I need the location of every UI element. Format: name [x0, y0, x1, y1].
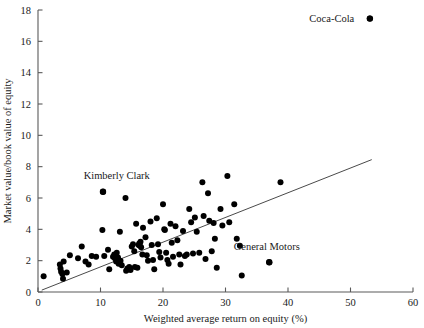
data-point	[75, 255, 81, 261]
data-point	[190, 251, 196, 257]
data-point	[144, 252, 150, 258]
data-point	[41, 273, 47, 279]
axes	[38, 10, 413, 292]
data-point	[205, 190, 211, 196]
data-point	[64, 269, 70, 275]
point-annotations: Coca-ColaKimberly ClarkGeneral Motors	[84, 13, 373, 265]
data-point	[209, 248, 215, 254]
data-point	[156, 249, 162, 255]
data-point	[134, 265, 140, 271]
data-point	[194, 229, 200, 235]
data-point	[203, 256, 209, 262]
y-tick-label: 8	[26, 161, 31, 172]
data-point	[79, 244, 85, 250]
y-tick-label: 6	[26, 193, 31, 204]
data-point	[160, 201, 166, 207]
data-point	[101, 253, 107, 259]
data-point	[173, 223, 179, 229]
data-point	[188, 219, 194, 225]
y-tick-label: 10	[21, 130, 32, 141]
annotation-label: General Motors	[234, 241, 300, 252]
data-point	[151, 266, 157, 272]
data-points	[41, 16, 373, 282]
data-point	[106, 266, 112, 272]
annotation-label: Coca-Cola	[309, 13, 354, 24]
y-tick-label: 2	[26, 255, 31, 266]
x-axis-title: Weighted average return on equity (%)	[144, 313, 308, 325]
data-point	[278, 179, 284, 185]
y-tick-label: 4	[26, 224, 32, 235]
data-point	[163, 250, 169, 256]
data-point	[150, 257, 156, 263]
data-point	[99, 227, 105, 233]
x-tick-label: 10	[95, 297, 106, 308]
data-point	[239, 273, 245, 279]
x-tick-label: 60	[408, 297, 419, 308]
data-point	[123, 195, 129, 201]
data-point	[176, 251, 182, 257]
scatter-chart: 0102030405060024681012141618 Coca-ColaKi…	[0, 0, 424, 328]
data-point	[186, 206, 192, 212]
x-tick-label: 40	[283, 297, 294, 308]
data-point	[166, 261, 172, 267]
annotated-data-point	[367, 15, 373, 21]
data-point	[158, 255, 164, 261]
annotated-data-point	[100, 189, 106, 195]
data-point	[211, 220, 217, 226]
tick-labels: 0102030405060024681012141618	[21, 5, 419, 308]
data-point	[138, 244, 144, 250]
data-point	[231, 201, 237, 207]
y-tick-label: 18	[21, 5, 32, 16]
data-point	[226, 219, 232, 225]
data-point	[60, 276, 66, 282]
data-point	[169, 240, 175, 246]
data-point	[212, 236, 218, 242]
data-point	[143, 234, 149, 240]
data-point	[67, 252, 73, 258]
data-point	[180, 228, 186, 234]
data-point	[145, 258, 151, 264]
y-tick-label: 0	[26, 287, 31, 298]
x-tick-label: 30	[220, 297, 231, 308]
data-point	[138, 239, 144, 245]
plot-area: 0102030405060024681012141618 Coca-ColaKi…	[0, 0, 424, 328]
data-point	[149, 242, 155, 248]
annotation-label: Kimberly Clark	[84, 170, 151, 181]
data-point	[162, 227, 168, 233]
data-point	[214, 265, 220, 271]
x-tick-label: 0	[35, 297, 40, 308]
data-point	[61, 258, 67, 264]
x-tick-label: 50	[345, 297, 356, 308]
y-tick-label: 14	[21, 67, 32, 78]
data-point	[93, 254, 99, 260]
data-point	[219, 222, 225, 228]
y-axis-title: Market value/book value of equity	[2, 78, 13, 224]
x-tick-label: 20	[158, 297, 169, 308]
data-point	[86, 262, 92, 268]
data-point	[119, 262, 125, 268]
data-point	[192, 215, 198, 221]
data-point	[201, 213, 207, 219]
y-tick-label: 12	[21, 99, 32, 110]
data-point	[140, 225, 146, 231]
data-point	[131, 248, 137, 254]
data-point	[199, 179, 205, 185]
data-point	[196, 250, 202, 256]
data-point	[155, 241, 161, 247]
data-point	[148, 219, 154, 225]
tick-marks	[38, 10, 413, 292]
data-point	[218, 206, 224, 212]
data-point	[105, 247, 111, 253]
data-point	[178, 262, 184, 268]
y-tick-label: 16	[21, 36, 32, 47]
annotated-data-point	[266, 259, 272, 265]
data-point	[133, 221, 139, 227]
data-point	[154, 215, 160, 221]
data-point	[117, 229, 123, 235]
data-point	[130, 241, 136, 247]
data-point	[174, 237, 180, 243]
data-point	[170, 254, 176, 260]
data-point	[184, 251, 190, 257]
data-point	[224, 173, 230, 179]
